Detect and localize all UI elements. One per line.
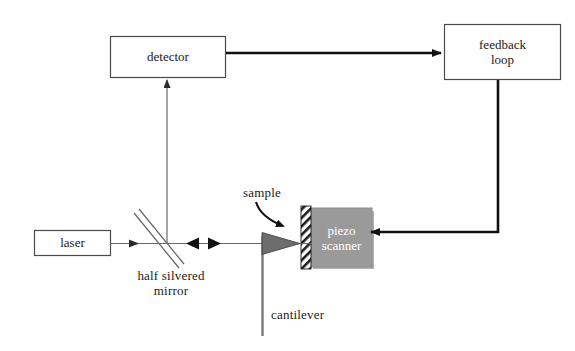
beam-arrowhead-left <box>186 238 199 250</box>
sample-pointer-curve <box>256 202 283 226</box>
piezo-label-line-1: piezo <box>322 223 362 238</box>
laser-box-label: laser <box>34 230 111 256</box>
half-silvered-mirror[interactable] <box>134 209 184 268</box>
mirror-label-line-1: half silvered <box>123 269 219 284</box>
piezo-label-line-2: scanner <box>322 238 362 253</box>
feedback-loop-box-label: feedback loop <box>444 24 561 80</box>
feedback-label-line-1: feedback <box>479 37 526 52</box>
beam-arrowhead-right <box>208 238 221 250</box>
mirror-label-line-2: mirror <box>123 284 219 299</box>
laser-beam-arrowhead <box>129 240 139 248</box>
afm-diagram-canvas: detector feedback loop laser piezo scann… <box>0 0 575 351</box>
piezo-scanner-box-label: piezo scanner <box>310 208 373 268</box>
detector-box-label: detector <box>110 36 226 78</box>
half-silvered-mirror-label: half silvered mirror <box>123 269 219 299</box>
feedback-to-piezo-arrow <box>371 80 498 232</box>
feedback-label-line-2: loop <box>479 52 526 67</box>
cantilever-label: cantilever <box>271 308 324 323</box>
sample-label: sample <box>243 186 281 201</box>
